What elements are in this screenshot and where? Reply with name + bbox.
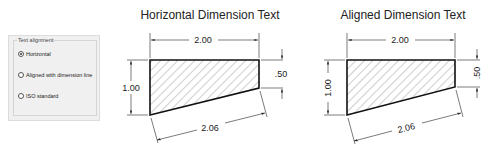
dim-bottom: 2.06 [201,123,219,133]
aligned-dimension-diagram: Aligned Dimension Text 2.00 1.00 .50 2.0… [323,8,482,144]
dimension-diagrams: Horizontal Dimension Text 2.00 1.00 .50 … [0,0,491,158]
dim-top: 2.00 [194,35,212,45]
horizontal-dimension-diagram: Horizontal Dimension Text 2.00 1.00 .50 … [122,8,287,143]
dim-right: .50 [275,69,288,79]
hatched-shape [150,60,259,115]
dim-bottom: 2.06 [397,121,416,135]
dim-right: .50 [472,67,482,80]
dim-left: 1.00 [122,83,140,93]
hatched-shape [347,60,455,115]
diagram-title: Horizontal Dimension Text [140,8,280,22]
dim-left: 1.00 [323,79,333,97]
diagram-title: Aligned Dimension Text [340,8,466,22]
dim-top: 2.00 [391,35,409,45]
